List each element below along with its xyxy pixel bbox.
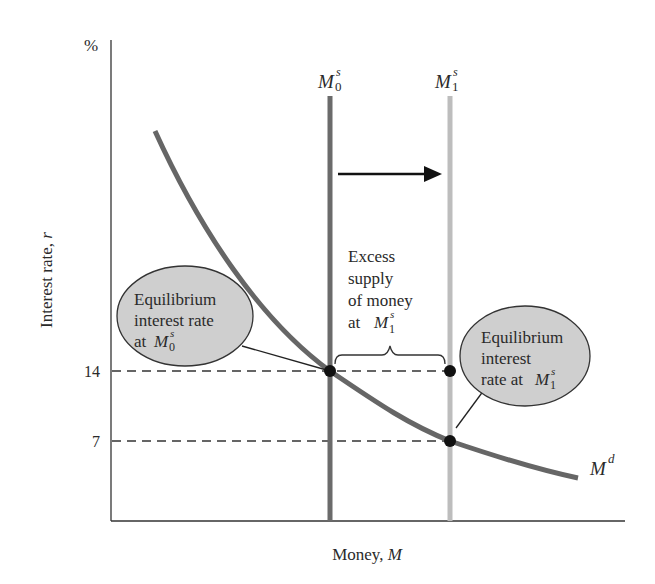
x-axis-title: Money, M: [332, 545, 403, 564]
y-tick-14: 14: [84, 363, 100, 380]
supply-label-m1-sup: s: [453, 65, 458, 79]
excess-supply-sub: 1: [389, 322, 395, 336]
y-axis-title: Interest rate, r: [37, 232, 56, 328]
callout-sub-m1: 1: [550, 378, 556, 392]
supply-label-m0-sup: s: [336, 65, 341, 79]
demand-label-sup: d: [608, 451, 615, 466]
supply-label-m1: M: [434, 71, 452, 92]
callout-sub-m0: 0: [169, 340, 175, 354]
callout-pointer-m1: [456, 390, 484, 428]
excess-supply-var: M: [373, 313, 389, 332]
excess-supply-brace: [335, 346, 445, 364]
y-unit-label: %: [84, 36, 98, 55]
y-tick-7: 7: [92, 433, 100, 450]
demand-label: M: [589, 458, 607, 479]
callout-var-m0: M: [153, 332, 169, 351]
callout-var-m1: M: [534, 370, 550, 389]
supply-label-m0: M: [317, 71, 335, 92]
money-market-diagram: % Interest rate, r Money, M 14 7 M s 0 M…: [0, 0, 655, 584]
supply-label-m1-sub: 1: [452, 79, 459, 94]
callout-sup-m0: s: [170, 327, 174, 339]
equilibrium-point-m1: [444, 435, 456, 447]
excess-supply-point: [444, 365, 456, 377]
arrow-head-icon: [424, 166, 442, 182]
excess-supply-sup: s: [390, 308, 394, 320]
supply-label-m0-sub: 0: [335, 79, 342, 94]
equilibrium-point-m0: [324, 365, 336, 377]
callout-sup-m1: s: [551, 365, 555, 377]
